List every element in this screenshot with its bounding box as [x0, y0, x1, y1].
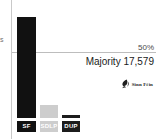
y-axis-line — [11, 0, 12, 139]
sinn-fein-logo: Sinn Féin — [121, 79, 153, 89]
bar-label-sdlp: SDLP — [40, 121, 58, 132]
bar-sdlp — [40, 105, 58, 118]
axis-edge-label: s — [0, 36, 9, 44]
majority-percent-label: 50% — [138, 43, 154, 52]
bar-dup — [62, 115, 80, 118]
majority-votes-label: Majority 17,579 — [86, 56, 154, 68]
bar-chart: s 50% Majority 17,579 SF SDLP DUP Sinn F… — [0, 0, 156, 139]
sinn-fein-logo-text: Sinn Féin — [132, 82, 153, 87]
bar-label-sf: SF — [17, 121, 36, 132]
bar-label-dup: DUP — [62, 121, 80, 132]
bar-sf — [17, 17, 36, 118]
sinn-fein-mark-icon — [121, 79, 130, 89]
